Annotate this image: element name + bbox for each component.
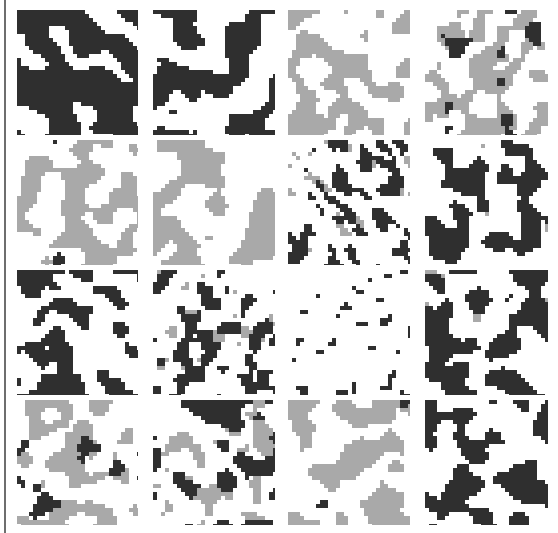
- tile-r3-c2: [153, 270, 275, 395]
- tile-r4-c2: [153, 400, 275, 525]
- tile-r1-c3: [288, 10, 410, 135]
- tile-r4-c4: [425, 400, 548, 525]
- tile-r1-c1: [17, 10, 138, 135]
- tile-r3-c3: [288, 270, 410, 395]
- tile-r4-c3: [288, 400, 410, 525]
- tile-r1-c2: [153, 10, 275, 135]
- simulation-grid: [0, 0, 558, 533]
- tile-r2-c2: [153, 140, 275, 265]
- tile-r3-c4: [425, 270, 548, 395]
- tile-r2-c3: [288, 140, 410, 265]
- tile-r1-c4: [425, 10, 548, 135]
- tile-r4-c1: [17, 400, 138, 525]
- tile-r3-c1: [17, 270, 138, 395]
- tile-r2-c1: [17, 140, 138, 265]
- tile-r2-c4: [425, 140, 548, 265]
